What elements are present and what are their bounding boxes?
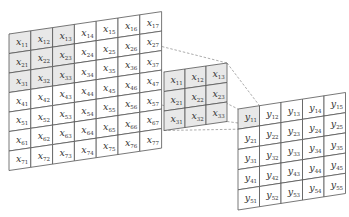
kernel-grid: x11x12x13x21x22x23x31x32x33 [164, 63, 227, 131]
kernel-to-output-line-3 [164, 129, 238, 130]
kernel-to-output-line-2 [227, 63, 260, 106]
convolution-diagram: x11x12x13x14x15x16x17x21x22x23x24x25x26x… [0, 0, 349, 217]
input-grid: x11x12x13x14x15x16x17x21x22x23x24x25x26x… [9, 12, 162, 171]
output-grid: y11y12y13y14y15y21y22y23y24y25y31y32y33y… [238, 93, 346, 211]
